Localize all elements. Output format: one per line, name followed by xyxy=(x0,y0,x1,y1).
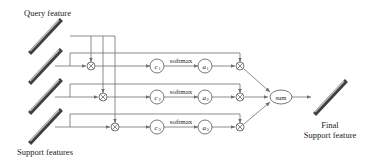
query-feature-label: Query feature xyxy=(24,8,71,18)
sum-label: sum xyxy=(276,94,287,101)
softmax-label-2: softmax xyxy=(170,88,193,96)
multiply-node-q2 xyxy=(99,93,107,101)
support-features-label: Support features xyxy=(17,147,73,157)
connection-lines xyxy=(55,36,311,127)
a1-sub: 1 xyxy=(207,66,209,71)
softmax-label-1: softmax xyxy=(170,57,193,65)
a2-sub: 2 xyxy=(207,97,209,102)
multiply-node-q3 xyxy=(111,123,119,131)
multiply-node-a1 xyxy=(236,62,244,70)
final-label-line1: Final xyxy=(321,120,339,130)
softmax-label-3: softmax xyxy=(170,118,193,126)
diagram-svg: c 1 c 2 c 3 a 1 a 2 a 3 softmax softmax … xyxy=(0,0,381,162)
multiply-node-q1 xyxy=(87,62,95,70)
c1-sub: 1 xyxy=(159,66,161,71)
multiply-node-a2 xyxy=(236,93,244,101)
final-support-feature-bar xyxy=(315,81,345,113)
multiply-node-a3 xyxy=(236,123,244,131)
query-feature-bar xyxy=(30,20,60,52)
final-label-line2: Support feature xyxy=(304,130,357,140)
attention-diagram: c 1 c 2 c 3 a 1 a 2 a 3 softmax softmax … xyxy=(0,0,381,162)
support-feature-bar-3 xyxy=(30,110,60,142)
c2-sub: 2 xyxy=(159,97,161,102)
support-feature-bar-2 xyxy=(30,80,60,112)
